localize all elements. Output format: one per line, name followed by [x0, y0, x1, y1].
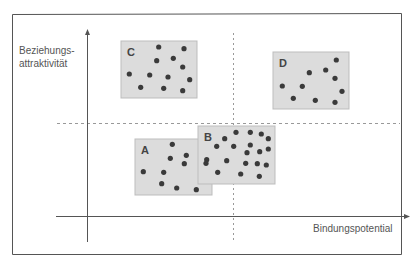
- customer-dot: [161, 170, 166, 175]
- customer-dot: [168, 156, 173, 161]
- customer-dot: [161, 86, 166, 91]
- segment-box-d: D: [273, 52, 349, 109]
- y-axis-label-line-2: attraktivität: [19, 57, 75, 70]
- customer-dot: [184, 153, 189, 158]
- customer-dot: [170, 142, 175, 147]
- y-axis-arrow-icon: [85, 29, 90, 35]
- customer-dot: [156, 44, 161, 49]
- customer-dot: [215, 170, 220, 175]
- customer-dot: [266, 146, 271, 151]
- y-axis-label-line-1: Beziehungs-: [19, 44, 75, 57]
- customer-dot: [187, 77, 192, 82]
- segment-label: D: [279, 57, 287, 69]
- customer-dot: [233, 130, 238, 135]
- customer-dot: [165, 74, 170, 79]
- customer-dot: [313, 98, 318, 103]
- customer-dot: [300, 84, 305, 89]
- customer-dot: [257, 149, 262, 154]
- customer-dot: [248, 130, 253, 135]
- customer-dot: [255, 161, 260, 166]
- customer-dot: [243, 161, 248, 166]
- x-axis-label: Bindungspotential: [313, 222, 393, 235]
- customer-dot: [181, 46, 186, 51]
- customer-dot: [339, 89, 344, 94]
- customer-dot: [248, 142, 253, 147]
- customer-dot: [257, 174, 262, 179]
- customer-dot: [264, 162, 269, 167]
- segment-label: B: [204, 131, 212, 143]
- segment-label: C: [127, 46, 135, 58]
- customer-dot: [182, 161, 187, 166]
- customer-dot: [323, 67, 328, 72]
- customer-dot: [180, 88, 185, 93]
- customer-dot: [147, 72, 152, 77]
- customer-dot: [238, 171, 243, 176]
- customer-dot: [224, 158, 229, 163]
- customer-dot: [180, 64, 185, 69]
- segment-label: A: [141, 144, 149, 156]
- customer-dot: [174, 185, 179, 190]
- customer-dot: [332, 100, 337, 105]
- segment-box-b: B: [198, 126, 275, 184]
- y-axis-label: Beziehungs- attraktivität: [19, 44, 75, 70]
- customer-dot: [280, 83, 285, 88]
- customer-dot: [127, 71, 132, 76]
- customer-dot: [266, 136, 271, 141]
- customer-dot: [141, 169, 146, 174]
- customer-dot: [138, 85, 143, 90]
- segment-box-c: C: [121, 41, 197, 98]
- customer-dot: [171, 56, 176, 61]
- customer-dot: [222, 136, 227, 141]
- customer-dot: [154, 58, 159, 63]
- customer-dot: [159, 181, 164, 186]
- customer-dot: [291, 96, 296, 101]
- customer-dot: [203, 161, 208, 166]
- x-axis-arrow-icon: [404, 214, 410, 219]
- customer-dot: [307, 70, 312, 75]
- customer-dot: [332, 76, 337, 81]
- customer-dot: [231, 144, 236, 149]
- customer-dot: [214, 144, 219, 149]
- customer-dot: [194, 187, 199, 192]
- customer-dot: [334, 57, 339, 62]
- customer-dot: [259, 131, 264, 136]
- customer-dot: [244, 150, 249, 155]
